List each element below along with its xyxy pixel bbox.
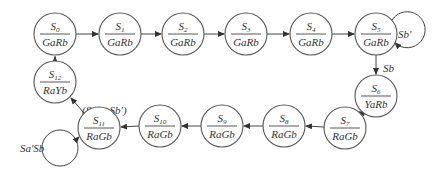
states: S0GaRbS1GaRbS2GaRbS3GaRbS4GaRbS5GaRbS6Ya… — [34, 13, 397, 149]
state-s0: S0GaRb — [34, 13, 76, 55]
state-s5: S5GaRb — [355, 13, 397, 55]
state-output: GaRb — [298, 36, 324, 48]
state-s3: S3GaRb — [225, 13, 267, 55]
state-s4: S4GaRb — [290, 13, 332, 55]
edge-label-s5-self: Sb' — [398, 28, 412, 40]
edge-s11-self-loop — [42, 130, 78, 166]
state-output: RaGb — [331, 130, 358, 142]
state-s12: S12RaYb — [34, 61, 76, 103]
state-output: GaRb — [107, 36, 133, 48]
state-output: GaRb — [363, 36, 389, 48]
state-s8: S8RaGb — [263, 105, 305, 147]
state-s6: S6YaRb — [355, 75, 397, 117]
edge-label-s11-self: Sa'Sb — [20, 142, 45, 154]
state-diagram: Sb' Sb Sa'Sb (Sa + Sb') S0GaRbS1GaRbS2Ga… — [0, 0, 438, 176]
edge-s7-s8 — [306, 126, 324, 127]
state-output: GaRb — [170, 36, 196, 48]
state-s1: S1GaRb — [99, 13, 141, 55]
state-output: GaRb — [42, 36, 68, 48]
state-s7: S7RaGb — [324, 107, 366, 149]
state-output: RaYb — [42, 84, 67, 96]
state-s10: S10RaGb — [139, 105, 181, 147]
state-s2: S2GaRb — [162, 13, 204, 55]
state-s11: S11RaGb — [78, 107, 120, 149]
edge-s10-s11 — [121, 126, 139, 127]
state-output: RaGb — [146, 128, 173, 140]
state-output: RaGb — [270, 128, 297, 140]
state-s9: S9RaGb — [201, 105, 243, 147]
state-output: GaRb — [233, 36, 259, 48]
state-output: RaGb — [208, 128, 235, 140]
state-output: RaGb — [85, 130, 112, 142]
state-output: YaRb — [365, 98, 388, 110]
edge-label-s5-s6: Sb — [383, 62, 395, 74]
